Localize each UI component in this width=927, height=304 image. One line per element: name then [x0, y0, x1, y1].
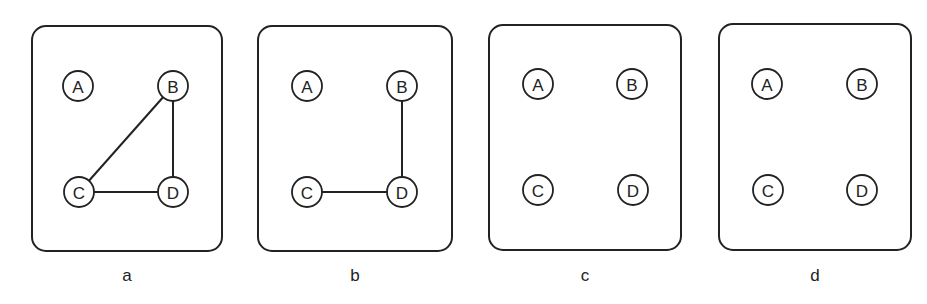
- node-c: C: [523, 175, 553, 205]
- node-label: D: [627, 182, 639, 201]
- node-b: B: [617, 69, 647, 99]
- node-c: C: [64, 177, 94, 207]
- graph-diagram: ABCDaABCDbABCDcABCDd: [0, 0, 927, 304]
- node-label: A: [761, 76, 773, 95]
- node-b: B: [158, 71, 188, 101]
- node-label: A: [532, 76, 544, 95]
- node-label: B: [626, 76, 637, 95]
- node-b: B: [387, 71, 417, 101]
- node-d: D: [387, 177, 417, 207]
- node-a: A: [752, 69, 782, 99]
- node-d: D: [618, 175, 648, 205]
- panel-label: d: [810, 266, 819, 285]
- panel-d: ABCDd: [719, 24, 911, 285]
- panel-c: ABCDc: [489, 25, 681, 285]
- node-label: D: [167, 184, 179, 203]
- node-a: A: [523, 69, 553, 99]
- node-label: C: [532, 182, 544, 201]
- panel-label: c: [581, 266, 590, 285]
- panel-frame: [719, 24, 911, 250]
- node-label: B: [856, 76, 867, 95]
- node-label: D: [856, 182, 868, 201]
- node-d: D: [158, 177, 188, 207]
- panel-label: a: [122, 266, 132, 285]
- node-label: A: [72, 78, 84, 97]
- panel-label: b: [350, 266, 359, 285]
- node-label: D: [396, 184, 408, 203]
- node-label: C: [762, 182, 774, 201]
- node-a: A: [292, 71, 322, 101]
- panel-frame: [258, 26, 452, 251]
- node-b: B: [847, 69, 877, 99]
- node-label: B: [396, 78, 407, 97]
- node-label: B: [167, 78, 178, 97]
- node-a: A: [63, 71, 93, 101]
- node-label: A: [301, 78, 313, 97]
- panel-b: ABCDb: [258, 26, 452, 285]
- node-label: C: [73, 184, 85, 203]
- panel-a: ABCDa: [32, 26, 222, 285]
- node-c: C: [753, 175, 783, 205]
- node-label: C: [301, 184, 313, 203]
- node-c: C: [292, 177, 322, 207]
- node-d: D: [847, 175, 877, 205]
- panel-frame: [489, 25, 681, 250]
